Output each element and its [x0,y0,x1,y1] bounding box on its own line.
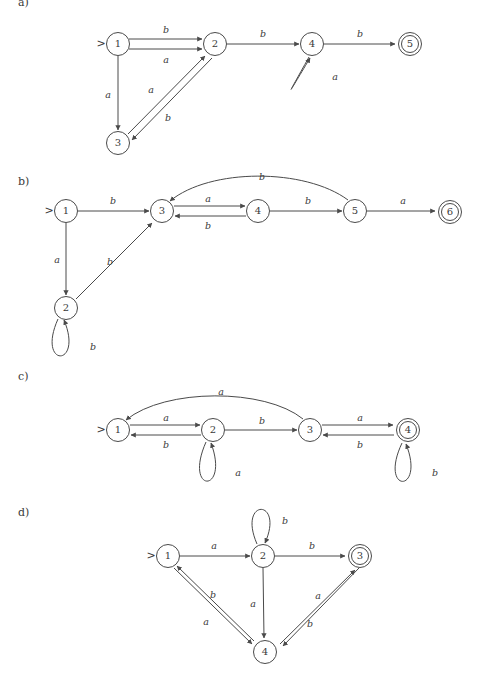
edge-label-c-2-2-a: a [235,467,241,478]
section-label-d: d) [18,506,29,519]
state-label: 1 [115,38,121,49]
state-label: 5 [407,38,413,49]
state-label: 1 [165,550,171,561]
state-d-3-accepting[interactable]: 3 [349,545,372,568]
start-marker-b: > [44,204,53,217]
edge-label-b-4-3-b: b [205,220,211,231]
edge-label-b-5-3-b: b [259,171,265,182]
edge-c-2-2-self-a [200,442,216,481]
edge-label-c-4-3-b: b [357,439,363,450]
edge-label-a-1-2-b: b [163,24,169,35]
automaton-a: > b a a a b b a b 1 2 3 [96,24,421,155]
edge-label-a-2-4-b: b [260,28,266,39]
state-b-6-accepting[interactable]: 6 [439,201,462,224]
edge-label-d-2-2-b: b [282,515,288,526]
edge-label-c-3-4-a: a [357,412,363,423]
state-label: 6 [447,206,453,217]
state-label: 1 [115,424,121,435]
section-label-b: b) [18,175,29,188]
edge-label-d-3-4-b: b [307,618,313,629]
edge-label-a-4-4-a: a [332,71,338,82]
state-label: 1 [63,205,69,216]
state-a-1[interactable]: 1 [107,33,130,56]
section-label-c: c) [18,370,28,383]
edge-label-b-1-2-a: a [54,254,60,265]
start-marker-c: > [96,423,105,436]
edge-label-c-2-3-b: b [259,415,265,426]
state-d-2[interactable]: 2 [252,545,275,568]
state-c-3[interactable]: 3 [299,419,322,442]
state-a-2[interactable]: 2 [204,33,227,56]
state-b-4[interactable]: 4 [247,200,270,223]
state-d-4[interactable]: 4 [254,641,277,664]
edge-d-1-4-a [174,568,252,644]
state-label: 3 [115,137,121,148]
state-label: 5 [352,205,358,216]
edge-d-2-2-self-b [252,509,270,544]
automata-canvas: a) b) c) d) > b a a a b b a b 1 2 [0,0,485,685]
edge-b-2-3-b [76,223,152,299]
edge-d-2-4-a [263,568,264,638]
edge-label-d-2-4-a: a [250,598,256,609]
state-c-1[interactable]: 1 [107,419,130,442]
edge-label-c-3-1-a: a [218,386,224,397]
automata-figure: a) b) c) d) > b a a a b b a b 1 2 [0,0,485,685]
edge-label-b-2-2-b: b [90,341,96,352]
state-c-4-accepting[interactable]: 4 [397,419,420,442]
edge-label-d-1-2-a: a [211,540,217,551]
edge-label-b-4-5-b: b [305,195,311,206]
edge-label-c-1-2-a: a [163,412,169,423]
state-label: 4 [309,38,315,49]
automaton-c: > a b b a a b a b 1 2 3 [96,386,438,482]
edge-c-4-4-self-b [395,443,411,481]
edge-label-a-4-5-b: b [357,28,363,39]
automaton-b: > b a b b a b b b a 1 2 3 [44,171,461,356]
state-b-3[interactable]: 3 [151,200,174,223]
edge-d-3-4-b [283,568,359,646]
state-d-1[interactable]: 1 [157,545,180,568]
state-label: 4 [262,646,268,657]
state-b-1[interactable]: 1 [55,200,78,223]
edge-label-a-3-2-a: a [148,84,154,95]
start-marker-d: > [146,549,155,562]
edge-label-a-2-3-b: b [165,112,171,123]
state-label: 2 [260,550,266,561]
state-label: 2 [210,424,216,435]
edge-d-4-3-a [280,570,355,644]
state-a-5-accepting[interactable]: 5 [399,33,422,56]
state-b-5[interactable]: 5 [344,200,367,223]
edge-d-4-1-b [177,566,254,641]
state-c-2[interactable]: 2 [202,419,225,442]
edge-label-d-2-3-b: b [309,540,315,551]
state-label: 2 [212,38,218,49]
edge-label-a-1-2-a: a [163,54,169,65]
edge-label-a-1-3-a: a [105,89,111,100]
edge-label-b-3-4-a: a [205,193,211,204]
state-b-2[interactable]: 2 [55,297,78,320]
state-a-4[interactable]: 4 [301,33,324,56]
state-label: 3 [357,550,363,561]
edge-label-d-4-3-a: a [315,590,321,601]
state-label: 3 [307,424,313,435]
state-label: 4 [405,424,411,435]
state-a-3[interactable]: 3 [107,132,130,155]
section-label-a: a) [18,0,29,9]
edge-label-b-1-3-b: b [110,195,116,206]
edge-a-4-4-self-a [291,57,310,89]
state-label: 2 [63,302,69,313]
state-label: 4 [255,205,261,216]
edge-b-2-2-self-b [52,319,69,356]
edge-label-c-2-1-b: b [163,439,169,450]
edge-c-3-1-a-curved [126,396,303,420]
edge-label-c-4-4-b: b [432,467,438,478]
automaton-d: > a b b a a b a b 1 2 3 [146,509,371,663]
state-label: 3 [159,205,165,216]
edge-label-b-2-3-b: b [107,256,113,267]
start-marker-a: > [96,37,105,50]
edge-label-d-1-4-a: a [203,616,209,627]
edge-label-b-5-6-a: a [400,195,406,206]
edge-label-d-4-1-b: b [210,589,216,600]
edge-a-2-3-b [132,58,212,140]
